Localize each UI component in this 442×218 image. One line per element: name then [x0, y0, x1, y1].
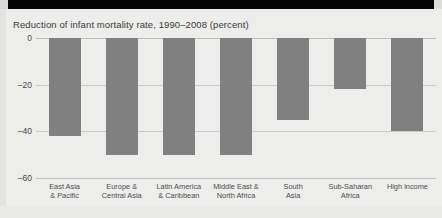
bar	[220, 38, 252, 155]
x-axis-label-line: Asia	[265, 191, 322, 200]
x-axis-label: Sub-SaharanAfrica	[322, 182, 379, 200]
x-axis-label-line: & Pacific	[36, 191, 93, 200]
x-axis-label-line: & Caribbean	[150, 191, 207, 200]
plot-area	[36, 38, 436, 178]
x-axis-label: Latin America& Caribbean	[150, 182, 207, 200]
x-axis-label-line: Sub-Saharan	[322, 182, 379, 191]
x-axis-label: SouthAsia	[265, 182, 322, 200]
x-axis-label-line: North Africa	[207, 191, 264, 200]
top-banner	[8, 0, 434, 9]
x-axis-label: Middle East &North Africa	[207, 182, 264, 200]
bar	[391, 38, 423, 131]
bar	[334, 38, 366, 89]
x-axis-label-line: South	[265, 182, 322, 191]
x-axis-label-line: High income	[379, 182, 436, 191]
x-axis-label-line: Latin America	[150, 182, 207, 191]
chart-title: Reduction of infant mortality rate, 1990…	[13, 19, 249, 30]
y-tick-label: –60	[18, 173, 32, 183]
x-axis-label-line: Middle East &	[207, 182, 264, 191]
page-bottom-edge	[0, 206, 442, 218]
x-axis-label-line: Central Asia	[93, 191, 150, 200]
gridline--60	[36, 178, 436, 179]
y-tick-label: 0	[27, 33, 32, 43]
x-axis-label-line: East Asia	[36, 182, 93, 191]
banner-left-cap	[0, 0, 8, 9]
x-axis-label: East Asia& Pacific	[36, 182, 93, 200]
x-axis-label-line: Africa	[322, 191, 379, 200]
x-axis-label: High income	[379, 182, 436, 191]
y-tick-label: –20	[18, 80, 32, 90]
bar	[163, 38, 195, 155]
y-axis: 0–20–40–60	[0, 38, 32, 183]
bar	[277, 38, 309, 120]
banner-right-cap	[434, 0, 442, 9]
bar	[49, 38, 81, 136]
x-axis-label-line: Europe &	[93, 182, 150, 191]
x-axis-label: Europe &Central Asia	[93, 182, 150, 200]
bar	[106, 38, 138, 155]
chart-page: Reduction of infant mortality rate, 1990…	[0, 0, 442, 218]
y-tick-label: –40	[18, 126, 32, 136]
